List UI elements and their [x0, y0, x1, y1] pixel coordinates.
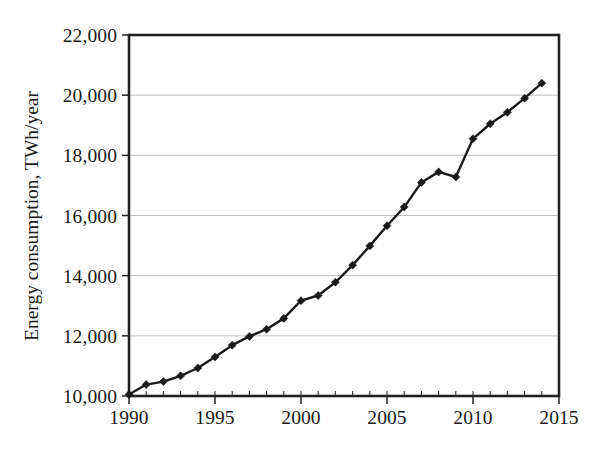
y-axis-tick-labels: 10,00012,00014,00016,00018,00020,00022,0…: [63, 25, 117, 407]
x-axis-tick-labels: 199019952000200520102015: [109, 407, 578, 428]
line-chart: 10,00012,00014,00016,00018,00020,00022,0…: [0, 0, 604, 453]
x-tick-label: 1990: [109, 407, 148, 428]
y-tick-label: 18,000: [63, 145, 117, 166]
x-tick-label: 2000: [281, 407, 320, 428]
y-axis-title: Energy consumption, TWh/year: [21, 90, 42, 341]
x-tick-label: 2005: [367, 407, 406, 428]
y-tick-label: 14,000: [63, 266, 117, 287]
y-axis-title-group: Energy consumption, TWh/year: [21, 90, 42, 341]
chart-figure: 10,00012,00014,00016,00018,00020,00022,0…: [0, 0, 604, 453]
x-tick-label: 1995: [195, 407, 234, 428]
x-tick-label: 2010: [453, 407, 492, 428]
y-tick-label: 20,000: [63, 85, 117, 106]
y-tick-label: 10,000: [63, 386, 117, 407]
y-tick-label: 16,000: [63, 206, 117, 227]
y-tick-label: 22,000: [63, 25, 117, 46]
x-tick-label: 2015: [539, 407, 578, 428]
y-tick-label: 12,000: [63, 326, 117, 347]
